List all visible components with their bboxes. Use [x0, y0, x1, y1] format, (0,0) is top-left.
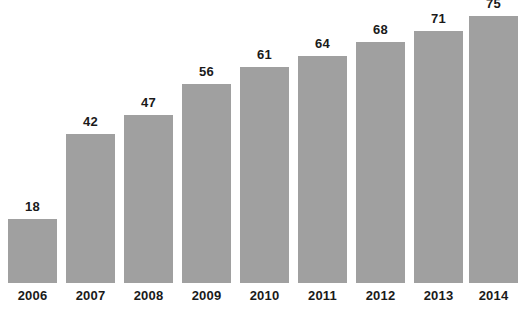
bar[interactable]	[66, 134, 115, 283]
bar-value-label: 47	[124, 95, 173, 110]
bar[interactable]	[356, 42, 405, 283]
bar[interactable]	[182, 84, 231, 283]
x-axis-tick-label: 2006	[8, 288, 57, 304]
bar[interactable]	[414, 31, 463, 283]
bar[interactable]	[8, 219, 57, 283]
bar-value-label: 42	[66, 114, 115, 129]
x-axis-tick-label: 2007	[66, 288, 115, 304]
bar-value-label: 61	[240, 47, 289, 62]
plot-area: 18 42 47 56 61 64 68 71	[0, 0, 525, 283]
x-axis-tick-label: 2011	[298, 288, 347, 304]
bar-value-label: 56	[182, 64, 231, 79]
bar[interactable]	[298, 56, 347, 283]
bar[interactable]	[124, 115, 173, 283]
bar-value-label: 71	[414, 11, 463, 26]
x-axis-tick-label: 2010	[240, 288, 289, 304]
x-axis-tick-label: 2008	[124, 288, 173, 304]
bar-value-label: 64	[298, 36, 347, 51]
x-axis-tick-label: 2013	[414, 288, 463, 304]
bar-value-label: 68	[356, 22, 405, 37]
bar[interactable]	[240, 67, 289, 283]
x-axis-tick-label: 2014	[469, 288, 518, 304]
bar-chart: 18 42 47 56 61 64 68 71	[0, 0, 525, 313]
bar-value-label: 75	[469, 0, 518, 11]
x-axis-labels: 2006 2007 2008 2009 2010 2011 2012 2013 …	[0, 283, 525, 313]
bar[interactable]	[469, 16, 518, 283]
bar-value-label: 18	[8, 199, 57, 214]
x-axis-tick-label: 2012	[356, 288, 405, 304]
x-axis-tick-label: 2009	[182, 288, 231, 304]
